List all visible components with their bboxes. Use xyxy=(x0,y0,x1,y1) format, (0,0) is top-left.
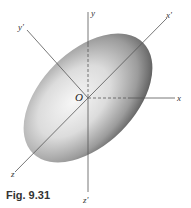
label-origin: O xyxy=(75,91,83,103)
label-z: z xyxy=(10,169,15,179)
label-y-prime: y' xyxy=(17,22,25,32)
label-y: y xyxy=(90,8,95,18)
label-x-prime: x' xyxy=(165,10,173,20)
figure-caption: Fig. 9.31 xyxy=(6,189,50,201)
label-z-prime: z' xyxy=(82,195,90,205)
ellipsoid-diagram: y y' x' x z z' O xyxy=(0,0,191,208)
label-x: x xyxy=(176,93,181,103)
